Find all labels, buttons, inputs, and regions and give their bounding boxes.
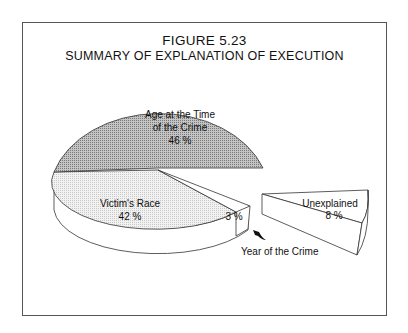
label-age-line2: of the Crime xyxy=(153,122,208,133)
label-year-value: 3 % xyxy=(225,211,242,222)
label-year-of-crime: Year of the Crime xyxy=(241,246,319,257)
label-victims-race-value: 42 % xyxy=(119,211,142,222)
arrow-icon xyxy=(253,230,266,240)
label-age-line1: Age at the Time xyxy=(145,109,215,120)
label-unexplained: Unexplained xyxy=(302,198,358,209)
label-age-value: 46 % xyxy=(169,135,192,146)
label-victims-race: Victim's Race xyxy=(100,198,161,209)
pie-chart: Age at the Time of the Crime 46 % Victim… xyxy=(0,0,408,333)
label-unexplained-value: 8 % xyxy=(325,210,342,221)
